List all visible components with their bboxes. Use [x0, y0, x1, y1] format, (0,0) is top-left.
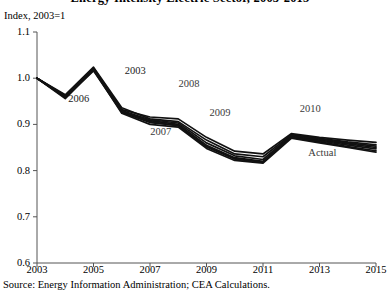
axis-lines	[33, 32, 376, 267]
y-tick-label: 1.0	[0, 73, 30, 83]
y-axis-unit-label: Index, 2003=1	[4, 10, 65, 21]
plot-area	[37, 32, 376, 263]
y-tick-label: 0.8	[0, 166, 30, 176]
y-tick-label: 0.9	[0, 119, 30, 129]
chart-title: Energy Intensity Electric Sector, 2003-2…	[0, 0, 380, 6]
chart-canvas	[37, 32, 376, 263]
y-tick-label: 1.1	[0, 27, 30, 37]
source-note: Source: Energy Information Administratio…	[3, 279, 270, 290]
series-line	[37, 70, 376, 163]
y-tick-label: 0.7	[0, 212, 30, 222]
x-tick-label: 2015	[356, 265, 391, 275]
data-lines	[37, 67, 376, 163]
series-line	[37, 69, 376, 161]
